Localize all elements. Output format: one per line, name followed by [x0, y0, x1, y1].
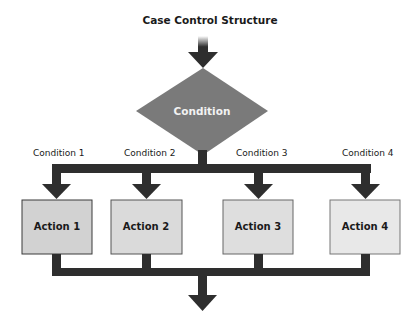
diagram-canvas	[0, 0, 420, 327]
branch-condition-4-label: Condition 4	[342, 148, 394, 158]
branch-condition-1-label: Condition 1	[33, 148, 85, 158]
branch-bar-top	[52, 164, 371, 173]
action-4-label: Action 4	[330, 221, 400, 232]
entry-arrow	[188, 36, 218, 68]
branch-condition-3-label: Condition 3	[236, 148, 288, 158]
merge-bar-bottom	[52, 268, 370, 276]
action-1-label: Action 1	[22, 221, 92, 232]
case-control-diagram: Case Control Structure Condition Conditi…	[0, 0, 420, 327]
condition-label: Condition	[136, 105, 268, 117]
action-2-label: Action 2	[111, 221, 181, 232]
branch-condition-2-label: Condition 2	[124, 148, 176, 158]
action-3-label: Action 3	[223, 221, 293, 232]
diagram-title: Case Control Structure	[0, 14, 420, 26]
